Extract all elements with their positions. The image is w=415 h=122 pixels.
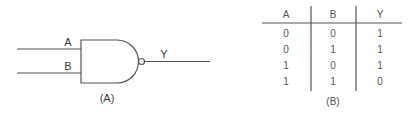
table-row: 0 1 1 [283,44,383,55]
inversion-bubble [139,59,145,65]
caption-a: (A) [100,92,115,104]
header-b: B [330,9,337,20]
table-row: 0 0 1 [283,28,383,39]
cell-y: 0 [377,76,383,87]
nand-gate-body [81,40,139,83]
input-label-b: B [64,60,71,72]
diagram-canvas: A B Y (A) A B Y 0 0 1 0 1 1 1 0 1 1 1 0 [0,0,415,122]
cell-b: 0 [330,60,336,71]
header-a: A [283,9,290,20]
table-row: 1 1 0 [283,76,383,87]
caption-b: (B) [326,96,339,107]
cell-b: 1 [330,76,336,87]
cell-a: 0 [283,44,289,55]
output-label-y: Y [160,48,168,60]
header-y: Y [377,9,384,20]
table-row: 1 0 1 [283,60,383,71]
cell-b: 0 [330,28,336,39]
cell-b: 1 [330,44,336,55]
cell-y: 1 [377,44,383,55]
cell-a: 1 [283,76,289,87]
input-label-a: A [64,36,72,48]
cell-a: 0 [283,28,289,39]
truth-table: A B Y 0 0 1 0 1 1 1 0 1 1 1 0 (B) [262,6,402,107]
cell-a: 1 [283,60,289,71]
nand-gate-schematic: A B Y (A) [17,36,210,104]
cell-y: 1 [377,28,383,39]
cell-y: 1 [377,60,383,71]
